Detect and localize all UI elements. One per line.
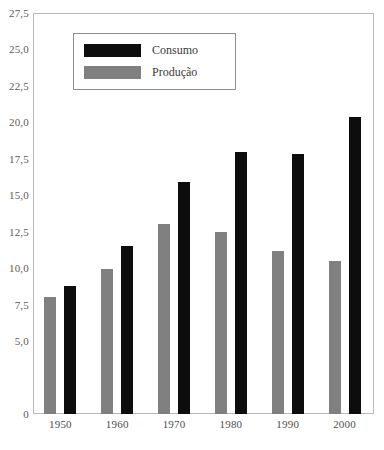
y-axis-tick-label: 22,5 [9, 80, 29, 92]
bar-produo-1950 [44, 297, 56, 414]
bar-produo-1980 [215, 232, 227, 414]
legend-label: Consumo [152, 43, 198, 58]
x-axis-tick-label: 1990 [276, 418, 299, 430]
y-axis-tick-label: 17,5 [9, 153, 29, 165]
legend-swatch-icon [84, 66, 141, 79]
bar-consumo-1960 [121, 246, 133, 414]
y-axis-tick-label: 0 [23, 408, 29, 420]
x-axis-tick-label: 1980 [220, 418, 243, 430]
bar-consumo-1990 [292, 154, 304, 414]
x-axis: 195019601970198019902000 [33, 418, 374, 442]
bar-produo-1990 [272, 251, 284, 414]
x-axis-tick-label: 1950 [49, 418, 72, 430]
x-axis-tick-label: 1970 [163, 418, 186, 430]
bar-consumo-1950 [64, 286, 76, 414]
y-axis-tick-label: 5,0 [15, 335, 29, 347]
y-axis-tick-label: 27,5 [9, 7, 29, 19]
x-axis-tick-label: 1960 [106, 418, 129, 430]
bar-produo-1970 [158, 224, 170, 414]
y-axis-tick-label: 10,0 [9, 262, 29, 274]
y-axis-tick-label: 12,5 [9, 226, 29, 238]
chart-page: 05,07,510,012,515,017,520,022,525,027,5 … [0, 0, 384, 450]
y-axis-tick-label: 7,5 [15, 299, 29, 311]
bar-consumo-1980 [235, 152, 247, 414]
legend-entry-produo: Produção [84, 65, 197, 79]
y-axis: 05,07,510,012,515,017,520,022,525,027,5 [0, 13, 29, 414]
x-axis-tick-label: 2000 [333, 418, 356, 430]
y-axis-tick-label: 20,0 [9, 116, 29, 128]
y-axis-tick-label: 15,0 [9, 189, 29, 201]
chart-legend: ConsumoProdução [73, 33, 236, 90]
bar-produo-1960 [101, 269, 113, 414]
bar-consumo-1970 [178, 182, 190, 414]
legend-swatch-icon [84, 44, 141, 57]
y-axis-tick-label: 25,0 [9, 43, 29, 55]
bar-produo-2000 [329, 261, 341, 414]
bar-consumo-2000 [349, 117, 361, 414]
legend-entry-consumo: Consumo [84, 43, 198, 57]
legend-label: Produção [152, 65, 197, 80]
